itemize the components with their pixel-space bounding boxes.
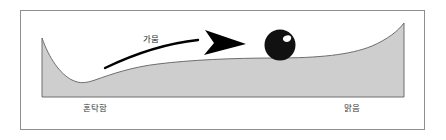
stability-landscape-curve bbox=[42, 23, 404, 97]
landscape-diagram bbox=[0, 0, 446, 140]
transition-arrow-head bbox=[204, 30, 246, 55]
figure-container: 혼탁함 맑음 가뭄 bbox=[0, 0, 446, 140]
transition-arrow-label: 가뭄 bbox=[143, 35, 159, 44]
landscape-label-left: 혼탁함 bbox=[83, 104, 108, 113]
landscape-label-right: 맑음 bbox=[344, 104, 360, 113]
state-ball-icon bbox=[265, 30, 296, 61]
